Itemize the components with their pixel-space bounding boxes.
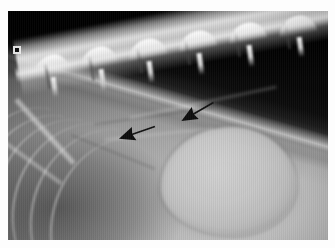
- radiograph-image: [8, 11, 328, 240]
- page-root: [0, 0, 335, 248]
- radiopaque-marker-icon: [13, 46, 21, 54]
- annotation-arrow-1: [112, 118, 160, 148]
- annotation-arrow-2: [174, 96, 220, 128]
